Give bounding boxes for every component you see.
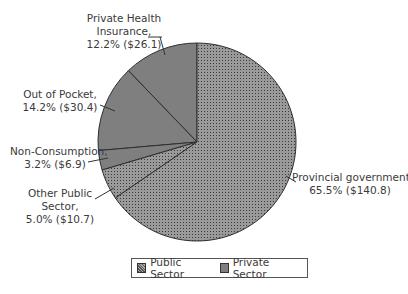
dotted-swatch-icon <box>137 263 146 273</box>
label-line: 14.2% ($30.4) <box>22 101 98 114</box>
leader-ops <box>95 188 114 199</box>
label-line: Sector, <box>24 200 96 213</box>
label-line: Non-Consumption, <box>10 145 100 158</box>
label-non-consumption: Non-Consumption, 3.2% ($6.9) <box>10 145 100 171</box>
label-line: Insurance, <box>74 25 174 38</box>
label-line: Private Health <box>74 12 174 25</box>
label-private-health-insurance: Private Health Insurance, 12.2% ($26.1) <box>74 12 174 51</box>
solid-swatch-icon <box>220 263 229 273</box>
label-out-of-pocket: Out of Pocket, 14.2% ($30.4) <box>22 88 98 114</box>
label-line: Other Public <box>24 187 96 200</box>
label-line: 12.2% ($26.1) <box>74 38 174 51</box>
label-line: 65.5% ($140.8) <box>292 184 408 197</box>
legend: Public Sector Private Sector <box>131 258 308 278</box>
label-provincial-government: Provincial government 65.5% ($140.8) <box>292 171 408 197</box>
legend-label: Private Sector <box>233 256 299 280</box>
legend-label: Public Sector <box>150 256 211 280</box>
pie-slices <box>98 43 296 241</box>
label-line: Out of Pocket, <box>22 88 98 101</box>
label-line: Provincial government <box>292 171 408 184</box>
label-line: 5.0% ($10.7) <box>24 213 96 226</box>
label-other-public-sector: Other Public Sector, 5.0% ($10.7) <box>24 187 96 226</box>
legend-item-public: Public Sector <box>137 256 212 280</box>
label-line: 3.2% ($6.9) <box>10 158 100 171</box>
legend-item-private: Private Sector <box>220 256 300 280</box>
